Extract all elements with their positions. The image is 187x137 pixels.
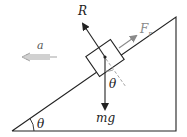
incline-diagram [0, 0, 187, 137]
base-angle-arc [30, 119, 34, 132]
center-of-mass-dot [103, 55, 106, 58]
block-angle-label: θ [109, 78, 116, 90]
friction-subscript: r [148, 29, 152, 38]
acceleration-arrow [22, 53, 57, 61]
normal-force-label: R [78, 5, 87, 17]
friction-force-label: Fr [140, 23, 152, 38]
acceleration-label: a [37, 40, 44, 51]
weight-label: mg [96, 112, 115, 124]
base-angle-label: θ [37, 118, 44, 130]
